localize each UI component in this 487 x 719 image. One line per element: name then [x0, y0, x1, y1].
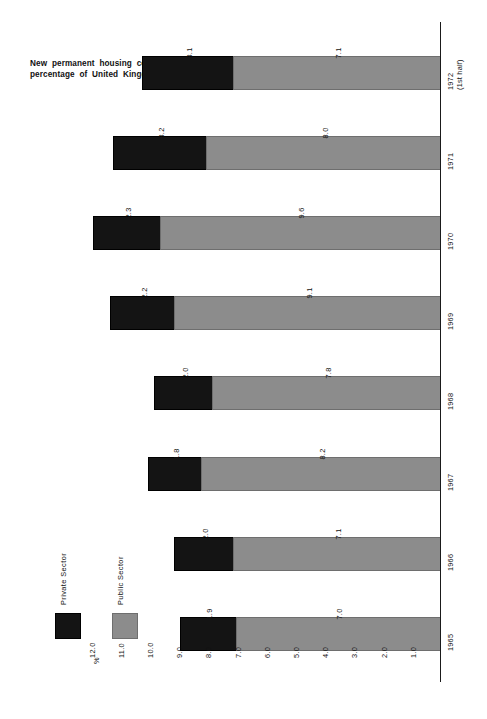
- bar-segment-public-sector[interactable]: 7.1: [233, 537, 440, 571]
- bar-value-label-public: 9.6: [297, 207, 306, 218]
- legend-item-public-sector[interactable]: Public Sector: [112, 525, 202, 551]
- bar-value-label-public: 8.0: [320, 127, 329, 138]
- bar-segment-public-sector[interactable]: 8.0: [206, 136, 440, 170]
- category-label-1969: 1969: [446, 290, 455, 330]
- value-tick-label: 4.0: [321, 647, 330, 658]
- bar-value-label-public: 7.1: [333, 528, 342, 539]
- bar-value-label-public: 7.0: [335, 608, 344, 619]
- value-tick-label: 10.0: [146, 642, 155, 658]
- legend-label: Public Sector: [116, 556, 125, 605]
- bar-value-label-private: 2.0: [180, 368, 189, 379]
- bar-group[interactable]: 7.01.9: [180, 617, 440, 651]
- bar-group[interactable]: 8.21.8: [148, 457, 440, 491]
- category-label-line-1: 1965: [446, 611, 455, 651]
- bar-value-label-private: 2.3: [123, 207, 132, 218]
- category-label-1965: 1965: [446, 611, 455, 651]
- value-tick-label: 12.0: [88, 642, 97, 658]
- bar-value-label-public: 7.1: [333, 47, 342, 58]
- value-tick-label: 2.0: [380, 647, 389, 658]
- bar-value-label-public: 9.1: [304, 288, 313, 299]
- bar-segment-private-sector[interactable]: 2.3: [93, 216, 160, 250]
- category-label-1972-1st-half-: 1972(1st half): [446, 50, 464, 90]
- category-label-1970: 1970: [446, 210, 455, 250]
- category-label-line-1: 1972: [446, 50, 455, 90]
- value-tick-label: 11.0: [117, 643, 126, 658]
- bar-value-label-private: 2.2: [139, 288, 148, 299]
- legend-swatch-icon: [112, 613, 138, 639]
- value-tick-label: 9.0: [175, 647, 184, 658]
- bar-group[interactable]: 8.03.2: [113, 136, 440, 170]
- category-label-line-1: 1966: [446, 531, 455, 571]
- chart-plot-area: 7.01.97.12.08.21.87.82.09.12.29.62.38.03…: [0, 0, 487, 719]
- bar-segment-private-sector[interactable]: 3.1: [142, 56, 233, 90]
- value-tick-label: 3.0: [350, 647, 359, 658]
- value-tick-label: 8.0: [204, 647, 213, 658]
- category-label-line-2: (1st half): [455, 50, 464, 90]
- bar-value-label-public: 7.8: [323, 368, 332, 379]
- axis-unit-label: %: [92, 657, 101, 664]
- bar-value-label-private: 1.8: [171, 448, 180, 459]
- bar-segment-public-sector[interactable]: 7.1: [233, 56, 440, 90]
- bar-group[interactable]: 9.12.2: [110, 296, 440, 330]
- value-tick-label: 1.0: [409, 647, 418, 658]
- bar-group[interactable]: 9.62.3: [93, 216, 440, 250]
- bar-segment-public-sector[interactable]: 9.1: [174, 296, 440, 330]
- bar-segment-private-sector[interactable]: 2.2: [110, 296, 174, 330]
- category-label-1971: 1971: [446, 130, 455, 170]
- value-tick-label: 5.0: [292, 647, 301, 658]
- bar-segment-private-sector[interactable]: 3.2: [113, 136, 206, 170]
- bar-segment-private-sector[interactable]: 2.0: [154, 376, 212, 410]
- category-label-line-1: 1971: [446, 130, 455, 170]
- category-label-line-1: 1969: [446, 290, 455, 330]
- legend-swatch-icon: [55, 613, 81, 639]
- bar-group[interactable]: 7.13.1: [142, 56, 440, 90]
- value-tick-label: 7.0: [234, 647, 243, 658]
- bar-segment-public-sector[interactable]: 8.2: [201, 457, 440, 491]
- category-label-1966: 1966: [446, 531, 455, 571]
- category-label-1968: 1968: [446, 370, 455, 410]
- category-label-1967: 1967: [446, 451, 455, 491]
- legend-label: Private Sector: [59, 553, 68, 605]
- category-label-line-1: 1967: [446, 451, 455, 491]
- bar-value-label-private: 1.9: [205, 608, 214, 619]
- bar-segment-public-sector[interactable]: 7.8: [212, 376, 440, 410]
- bar-value-label-private: 3.2: [157, 127, 166, 138]
- bar-group[interactable]: 7.12.0: [174, 537, 440, 571]
- value-tick-label: 6.0: [263, 647, 272, 658]
- category-label-line-1: 1970: [446, 210, 455, 250]
- bar-segment-public-sector[interactable]: 9.6: [160, 216, 440, 250]
- bar-group[interactable]: 7.82.0: [154, 376, 440, 410]
- bar-value-label-private: 3.1: [185, 47, 194, 58]
- category-label-line-1: 1968: [446, 370, 455, 410]
- bar-segment-private-sector[interactable]: 1.8: [148, 457, 201, 491]
- bar-value-label-public: 8.2: [317, 448, 326, 459]
- value-axis-line: [440, 22, 441, 682]
